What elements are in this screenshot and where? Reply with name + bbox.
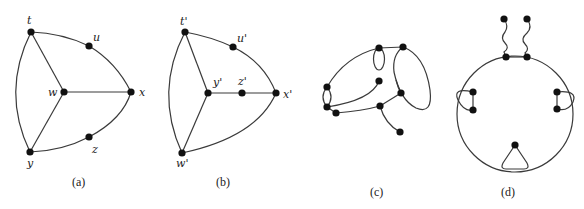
panel-caption-d: (d) <box>501 185 515 199</box>
edge-t-w <box>169 32 185 153</box>
vertex-label-t-prime: t' <box>180 15 187 28</box>
vertex-d-bottom <box>511 141 518 148</box>
edge-u-x <box>89 46 131 92</box>
vertex-y-prime <box>204 89 211 96</box>
vertex-d-left-lower <box>469 106 476 113</box>
vertex-label-w-prime: w' <box>176 157 188 170</box>
panel-caption-c: (c) <box>370 185 383 199</box>
edge-d-cycle <box>457 56 573 172</box>
vertex-c-1 <box>375 44 382 51</box>
panel-d: (d) <box>457 15 574 199</box>
vertex-d-right-upper <box>553 88 560 95</box>
vertex-d-right-lower <box>553 105 560 112</box>
vertex-u-prime <box>229 43 236 50</box>
vertex-label-x: x <box>139 86 146 99</box>
vertex-d-pendant-right <box>523 15 530 22</box>
vertex-label-z: z <box>91 143 98 156</box>
vertex-w <box>60 88 67 95</box>
edge-t-w <box>31 32 64 92</box>
edge-d-triangle-loop <box>502 145 528 169</box>
vertex-label-z-prime: z' <box>237 75 247 88</box>
vertex-z-prime <box>238 89 245 96</box>
edge-d-wavy-left <box>503 19 508 57</box>
edge-c-mid-right <box>380 93 401 106</box>
vertex-y <box>26 148 33 155</box>
edge-y-z <box>30 137 89 152</box>
edge-c-bottom <box>336 106 380 113</box>
vertex-c-9 <box>396 128 403 135</box>
vertex-d-top-left <box>502 53 509 60</box>
vertex-u <box>85 42 92 49</box>
vertex-x <box>127 88 134 95</box>
vertex-label-u-prime: u' <box>237 32 247 45</box>
vertex-w-prime <box>178 149 185 156</box>
vertex-z <box>85 133 92 140</box>
vertex-c-3 <box>375 77 382 84</box>
vertex-label-y: y <box>26 157 34 170</box>
vertex-c-7 <box>376 102 383 109</box>
vertex-label-y-prime: y' <box>212 76 222 89</box>
vertex-x-prime <box>272 89 279 96</box>
edge-w-x <box>182 93 276 153</box>
edge-c-large-loop <box>394 47 431 110</box>
graph-figure: t u w x z y (a) t' u' y' z' x' w' (b) <box>0 0 584 209</box>
edge-t-u <box>185 32 233 47</box>
vertex-label-x-prime: x' <box>283 88 292 101</box>
edge-c-curve-up <box>327 81 379 107</box>
panel-caption-b: (b) <box>216 175 230 189</box>
edge-t-y <box>16 32 31 152</box>
vertex-c-6 <box>332 109 339 116</box>
vertex-d-pendant-left <box>500 15 507 22</box>
edge-d-wavy-right <box>523 19 530 57</box>
edge-c-pendant <box>380 106 400 132</box>
edge-c-outer-arc <box>327 48 379 87</box>
vertex-label-w: w <box>48 86 58 99</box>
vertex-label-t: t <box>27 14 32 27</box>
vertex-t-prime <box>181 28 188 35</box>
vertex-c-5 <box>323 103 330 110</box>
edge-c-top <box>379 47 403 48</box>
edge-z-x <box>89 92 131 137</box>
vertex-d-left-upper <box>469 88 476 95</box>
vertex-t <box>27 28 34 35</box>
vertex-c-2 <box>399 43 406 50</box>
panel-caption-a: (a) <box>72 175 85 189</box>
edge-t-u <box>31 32 89 46</box>
vertex-d-top-right <box>523 53 530 60</box>
edge-y-w <box>182 93 208 153</box>
panel-a: t u w x z y (a) <box>16 14 146 189</box>
panel-b: t' u' y' z' x' w' (b) <box>169 15 293 189</box>
vertex-c-4 <box>323 83 330 90</box>
edge-t-y <box>185 32 208 93</box>
vertex-c-8 <box>397 89 404 96</box>
edge-w-y <box>30 92 64 152</box>
panel-c: (c) <box>323 43 430 199</box>
vertex-label-u: u <box>93 31 100 44</box>
